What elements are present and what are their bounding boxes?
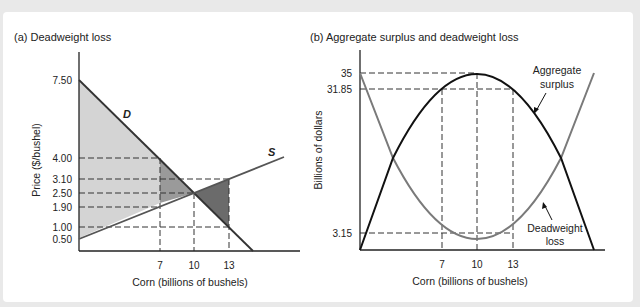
- demand-label: D: [123, 108, 131, 120]
- dwl-label-line2: loss: [546, 235, 565, 247]
- aggregate-label-line2: surplus: [540, 78, 574, 90]
- svg-text:7: 7: [439, 259, 445, 270]
- left-y-ticks: 7.50 4.00 3.10 2.50 1.90 1.00 0.50: [53, 75, 73, 245]
- svg-text:31.85: 31.85: [327, 84, 352, 95]
- svg-text:13: 13: [223, 260, 235, 271]
- right-y-label: Billions of dollars: [312, 111, 324, 190]
- left-x-label: Corn (billions of bushels): [132, 276, 248, 288]
- right-x-label: Corn (billions of bushels): [412, 275, 528, 287]
- svg-text:10: 10: [471, 259, 483, 270]
- supply-label: S: [268, 146, 276, 158]
- chart-deadweight-loss: (a) Deadweight loss D S 7.50 4.00 3.10: [14, 31, 300, 288]
- dwl-label-line1: Deadweight: [527, 222, 583, 234]
- svg-text:1.00: 1.00: [53, 222, 73, 233]
- right-y-ticks: 35 31.85 3.15: [327, 68, 352, 239]
- svg-text:3.10: 3.10: [53, 174, 73, 185]
- svg-text:7: 7: [157, 260, 163, 271]
- svg-text:4.00: 4.00: [53, 153, 73, 164]
- svg-text:0.50: 0.50: [53, 234, 73, 245]
- svg-text:35: 35: [341, 68, 353, 79]
- svg-text:13: 13: [507, 259, 519, 270]
- aggregate-label-line1: Aggregate: [533, 64, 582, 76]
- left-x-ticks: 7 10 13: [157, 260, 235, 271]
- right-chart-title: (b) Aggregate surplus and deadweight los…: [310, 31, 519, 43]
- aggregate-arrowhead-icon: [534, 107, 539, 114]
- svg-text:7.50: 7.50: [53, 75, 73, 86]
- svg-text:2.50: 2.50: [53, 188, 73, 199]
- charts-svg: (a) Deadweight loss D S 7.50 4.00 3.10: [0, 0, 640, 307]
- svg-text:3.15: 3.15: [333, 228, 353, 239]
- surplus-area: [79, 80, 160, 238]
- dwl-arrow-icon: [545, 206, 552, 220]
- aggregate-arrow-icon: [536, 93, 546, 111]
- right-x-ticks: 7 10 13: [439, 259, 519, 270]
- svg-text:10: 10: [188, 260, 200, 271]
- chart-aggregate-surplus: (b) Aggregate surplus and deadweight los…: [310, 31, 605, 287]
- left-y-label: Price ($/bushel): [30, 123, 42, 197]
- left-chart-title: (a) Deadweight loss: [14, 31, 112, 43]
- svg-text:1.90: 1.90: [53, 202, 73, 213]
- right-guides: [360, 73, 513, 250]
